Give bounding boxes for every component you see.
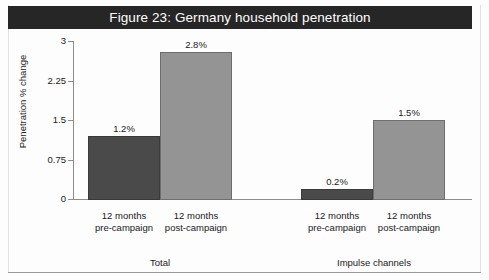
y-tick-label: 1.5 [20,115,66,124]
x-tick-label-line1: 12 months [88,210,160,222]
x-tick-label-impulse-post-campaign: 12 months post-campaign [373,210,445,233]
group-label-impulse-channels: Impulse channels [337,257,409,268]
y-tick-group-1: 0.75 [0,160,66,161]
bar-impulse-pre-campaign[interactable] [301,189,373,200]
chart-plot-area: Penetration % change 0 0.75 1.5 2.25 3 1… [0,0,489,280]
bar-total-post-campaign[interactable] [160,52,232,200]
bar-value-label-impulse-pre-campaign: 0.2% [301,176,373,187]
x-tick-label-line1: 12 months [373,210,445,222]
x-tick-label-total-post-campaign: 12 months post-campaign [160,210,232,233]
bar-impulse-post-campaign[interactable] [373,120,445,200]
y-tick-group-4: 3 [0,41,66,42]
bar-total-pre-campaign[interactable] [88,136,160,200]
bar-value-label-impulse-post-campaign: 1.5% [373,107,445,118]
y-tick-group-3: 2.25 [0,81,66,82]
x-tick-label-total-pre-campaign: 12 months pre-campaign [88,210,160,233]
x-tick-label-line2: post-campaign [160,222,232,234]
y-tick-label: 0.75 [20,155,66,164]
y-tick-mark [68,160,73,161]
group-label-total: Total [124,257,196,268]
y-tick-mark [68,41,73,42]
x-tick-label-line2: post-campaign [373,222,445,234]
x-tick-label-line1: 12 months [301,210,373,222]
y-tick-mark [68,81,73,82]
y-tick-group-2: 1.5 [0,120,66,121]
y-tick-mark [68,199,73,200]
x-tick-label-line1: 12 months [160,210,232,222]
x-tick-label-impulse-pre-campaign: 12 months pre-campaign [301,210,373,233]
y-tick-label: 2.25 [20,76,66,85]
bar-value-label-total-post-campaign: 2.8% [160,39,232,50]
x-tick-label-line2: pre-campaign [301,222,373,234]
bar-value-label-total-pre-campaign: 1.2% [88,123,160,134]
y-tick-group-0: 0 [0,199,66,200]
x-tick-label-line2: pre-campaign [88,222,160,234]
figure-container: Figure 23: Germany household penetration… [0,0,489,280]
y-tick-mark [68,120,73,121]
y-tick-label: 3 [20,36,66,45]
y-tick-label: 0 [20,194,66,203]
y-axis-title: Penetration % change [17,37,28,167]
y-axis-line [73,41,74,200]
